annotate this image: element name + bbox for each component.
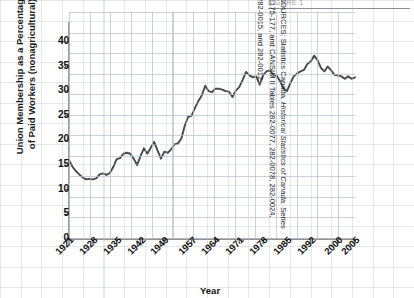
x-axis-title: Year (200, 285, 220, 296)
y-tick-label-35: 35 (43, 60, 69, 71)
sources-line1-prefix: SOURCES: Statistics Canada. (279, 0, 288, 102)
y-tick-label-5: 5 (43, 207, 69, 218)
y-axis-tick-labels: 0510152025303540 (43, 0, 69, 298)
plot-area-grid (69, 12, 355, 239)
top-horizontal-rule (268, 8, 410, 9)
sources-line1-italic: Historical Statistics of Canada. (279, 102, 288, 205)
sources-line-2: E175-177, and CANSIM II Tables 282-0077,… (266, 0, 277, 287)
sources-line1-suffix: Series (279, 205, 288, 229)
y-tick-label-10: 10 (43, 183, 69, 194)
y-tick-label-25: 25 (43, 109, 69, 120)
y-tick-label-20: 20 (43, 133, 69, 144)
y-axis-title-line2: of Paid Workers (nonagricultural) (26, 0, 37, 149)
sources-line-1: SOURCES: Statistics Canada. Historical S… (278, 0, 289, 287)
chart-container: Union Membership as a Percentage of Paid… (0, 0, 414, 298)
y-axis-title: Union Membership as a Percentage of Paid… (14, 0, 38, 174)
y-tick-label-15: 15 (43, 158, 69, 169)
clipped-figure-caption: FIGURE 1 (268, 0, 410, 7)
y-tick-label-30: 30 (43, 84, 69, 95)
y-tick-label-40: 40 (43, 35, 69, 46)
sources-note: SOURCES: Statistics Canada. Historical S… (255, 0, 289, 287)
y-axis-title-line1: Union Membership as a Percentage (14, 0, 25, 154)
sources-line-3: 282-0015, and 282-0012. (255, 0, 266, 287)
